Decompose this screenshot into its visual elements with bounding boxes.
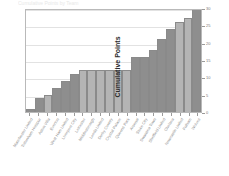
y-tick [202, 61, 205, 62]
bar [131, 57, 140, 112]
y-tick [202, 9, 205, 10]
cumulative-points-bar-chart: Cumulative Points by Team 051015202530 C… [0, 0, 229, 176]
y-tick-label: 5 [206, 94, 208, 98]
y-tick-label: 10 [206, 76, 210, 80]
y-tick-label: 25 [206, 24, 210, 28]
bar [157, 39, 166, 112]
y-tick [202, 26, 205, 27]
bar [70, 74, 79, 112]
y-tick [202, 78, 205, 79]
bar [61, 81, 70, 112]
bar [96, 70, 105, 112]
bar [184, 18, 193, 112]
bar [149, 50, 158, 112]
chart-title: Cumulative Points by Team [18, 0, 188, 7]
bar [79, 70, 88, 112]
y-axis-title: Cumulative Points [112, 15, 124, 119]
y-axis: 051015202530 [202, 9, 214, 113]
x-label-cell: Wolves [193, 117, 202, 173]
bar [52, 88, 61, 112]
x-axis-labels: Manchester UnitedTottenham HotspurAston … [25, 117, 202, 173]
bar [26, 109, 35, 112]
y-tick-label: 0 [206, 111, 208, 115]
bar [35, 98, 44, 112]
y-tick [202, 113, 205, 114]
y-tick-label: 15 [206, 59, 210, 63]
bar [166, 29, 175, 112]
bar [175, 22, 184, 112]
y-tick-label: 20 [206, 42, 210, 46]
bar [87, 70, 96, 112]
bar [192, 9, 201, 112]
y-tick [202, 96, 205, 97]
bar [140, 57, 149, 112]
y-tick-label: 30 [206, 7, 210, 11]
bar [44, 95, 53, 112]
y-tick [202, 44, 205, 45]
x-tick-label: Wolves [191, 117, 202, 131]
